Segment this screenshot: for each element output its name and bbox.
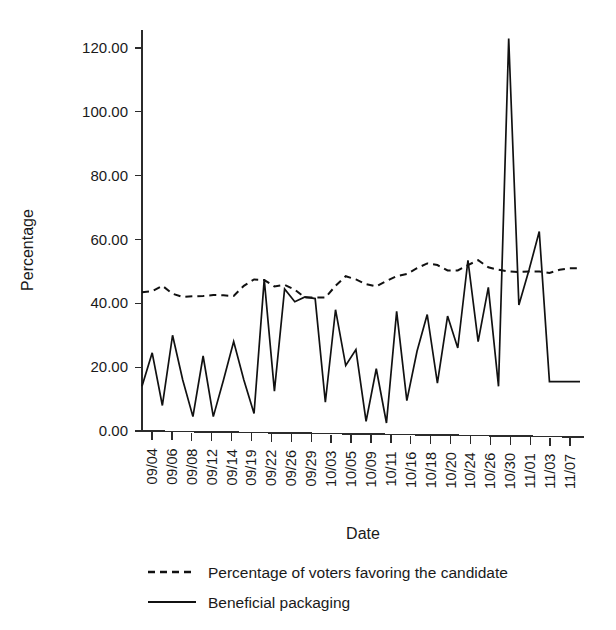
legend-entry-beneficial-packaging: Beneficial packaging [148, 594, 350, 611]
x-tick-label: 09/08 [184, 449, 200, 485]
x-tick-label: 09/06 [164, 448, 180, 484]
x-tick-label: 09/22 [263, 450, 279, 486]
x-tick-label: 09/12 [204, 449, 220, 485]
x-tick-label: 10/05 [343, 451, 359, 487]
x-tick-label: 10/11 [383, 451, 399, 486]
x-tick-label: 10/30 [502, 453, 518, 489]
x-tick-label: 11/03 [542, 454, 558, 489]
x-tick-label: 09/14 [224, 449, 240, 485]
legend-label-percentage-of-voters: Percentage of voters favoring the candid… [208, 564, 508, 581]
chart-legend: Percentage of voters favoring the candid… [148, 564, 508, 611]
y-tick-label: 80.00 [90, 167, 128, 184]
y-axis-title: Percentage [19, 209, 36, 291]
x-tick-label: 10/18 [423, 452, 439, 488]
y-tick-label: 20.00 [90, 358, 128, 375]
x-tick-label: 09/19 [244, 449, 260, 485]
y-tick-label: 120.00 [82, 39, 128, 56]
y-axis-ticks: 0.0020.0040.0060.0080.00100.00120.00 [82, 39, 142, 439]
x-tick-label: 10/09 [363, 451, 379, 487]
y-tick-label: 0.00 [99, 422, 128, 439]
x-tick-label: 10/26 [482, 453, 498, 489]
line-chart: 0.0020.0040.0060.0080.00100.00120.00 09/… [0, 0, 616, 630]
legend-entry-percentage-of-voters: Percentage of voters favoring the candid… [148, 564, 508, 581]
y-tick-label: 100.00 [82, 103, 128, 120]
x-axis-line [142, 431, 584, 437]
x-axis-title: Date [346, 525, 380, 542]
x-tick-label: 09/26 [283, 450, 299, 486]
y-tick-label: 40.00 [90, 294, 128, 311]
series-line-percentage-of-voters [142, 260, 580, 297]
x-tick-label: 10/20 [443, 452, 459, 488]
x-tick-label: 09/29 [303, 450, 319, 486]
legend-label-beneficial-packaging: Beneficial packaging [208, 594, 350, 611]
x-tick-label: 10/16 [403, 452, 419, 488]
x-tick-label: 11/07 [562, 454, 578, 489]
chart-container: 0.0020.0040.0060.0080.00100.00120.00 09/… [0, 0, 616, 630]
x-tick-label: 11/01 [522, 453, 538, 488]
y-tick-label: 60.00 [90, 231, 128, 248]
data-series-group [142, 38, 580, 423]
x-tick-label: 10/03 [323, 451, 339, 487]
x-axis-ticks: 09/0409/0609/0809/1209/1409/1909/2209/26… [144, 432, 578, 489]
series-line-beneficial-packaging [142, 38, 580, 423]
x-tick-label: 10/24 [463, 452, 479, 488]
x-tick-label: 09/04 [144, 448, 160, 484]
